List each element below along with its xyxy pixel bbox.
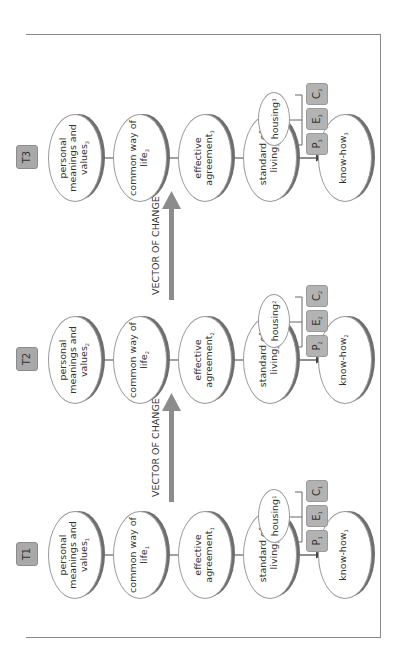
component-c-t2: C2	[306, 285, 328, 307]
component-p-t2: P2	[306, 335, 328, 357]
node-agreement-t3: effective agreement3	[178, 114, 232, 202]
vector-arrow-2	[162, 191, 181, 300]
node-values-t2: personal meanings and values2	[48, 316, 102, 404]
vector-of-change-label-2: VECTOR OF CHANGE	[150, 196, 161, 295]
node-values-t3: personal meanings and values3	[48, 114, 102, 202]
component-e-t1: E1	[306, 505, 328, 527]
component-c-t1: C1	[306, 480, 328, 502]
component-c-t3: C3	[306, 83, 328, 105]
node-agreement-t2: effective agreement2	[178, 316, 232, 404]
housing-t2: housing2	[258, 294, 290, 348]
component-e-t3: E3	[306, 108, 328, 130]
housing-t1: housing1	[258, 489, 290, 543]
node-agreement-t1: effective agreement1	[178, 511, 232, 599]
diagram-canvas: VECTOR OF CHANGE VECTOR OF CHANGE T1 per…	[0, 0, 395, 647]
node-way-of-life-t3: common way of life3	[113, 114, 167, 202]
vector-arrow-1	[162, 393, 181, 502]
component-p-t3: P3	[306, 133, 328, 155]
housing-t3: housing3	[258, 92, 290, 146]
stage-label-t2: T2	[16, 347, 38, 371]
component-p-t1: P1	[306, 530, 328, 552]
stage-label-t3: T3	[16, 145, 38, 169]
node-way-of-life-t1: common way of life1	[113, 511, 167, 599]
node-values-t1: personal meanings and values1	[48, 511, 102, 599]
vector-of-change-label-1: VECTOR OF CHANGE	[150, 398, 161, 497]
stage-label-t1: T1	[16, 542, 38, 566]
node-way-of-life-t2: common way of life2	[113, 316, 167, 404]
component-e-t2: E2	[306, 310, 328, 332]
